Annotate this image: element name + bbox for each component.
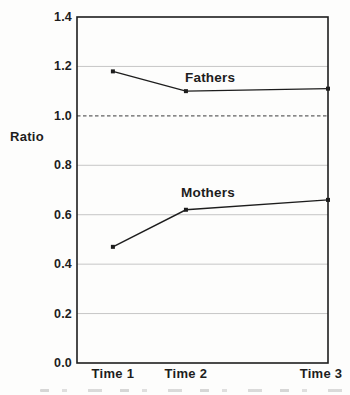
y-tick-label-0.6: 0.6: [28, 208, 72, 222]
series-label-fathers: Fathers: [185, 70, 235, 85]
data-point-marker-mothers: [111, 245, 115, 249]
x-tick-label-time-3: Time 3: [286, 366, 350, 381]
x-tick-label-time-2: Time 2: [151, 366, 221, 381]
series-line-mothers: [113, 200, 328, 247]
y-tick-label-1.4: 1.4: [28, 10, 72, 24]
x-tick-label-time-1: Time 1: [78, 366, 148, 381]
series-label-mothers: Mothers: [181, 185, 235, 200]
y-tick-label-0.0: 0.0: [28, 356, 72, 370]
cropped-caption-fragment: [40, 389, 346, 392]
chart-figure: Ratio 0.0 0.2 0.4 0.6 0.8 1.0 1.2 1.4 Ti…: [0, 0, 350, 395]
y-axis-title: Ratio: [10, 129, 44, 144]
data-point-marker-mothers: [326, 198, 330, 202]
y-tick-label-0.2: 0.2: [28, 307, 72, 321]
data-point-marker-mothers: [184, 208, 188, 212]
y-tick-label-1.2: 1.2: [28, 59, 72, 73]
y-tick-label-0.8: 0.8: [28, 158, 72, 172]
data-point-marker-fathers: [184, 89, 188, 93]
data-point-marker-fathers: [111, 69, 115, 73]
data-point-marker-fathers: [326, 87, 330, 91]
y-tick-label-0.4: 0.4: [28, 257, 72, 271]
y-tick-label-1.0: 1.0: [28, 109, 72, 123]
